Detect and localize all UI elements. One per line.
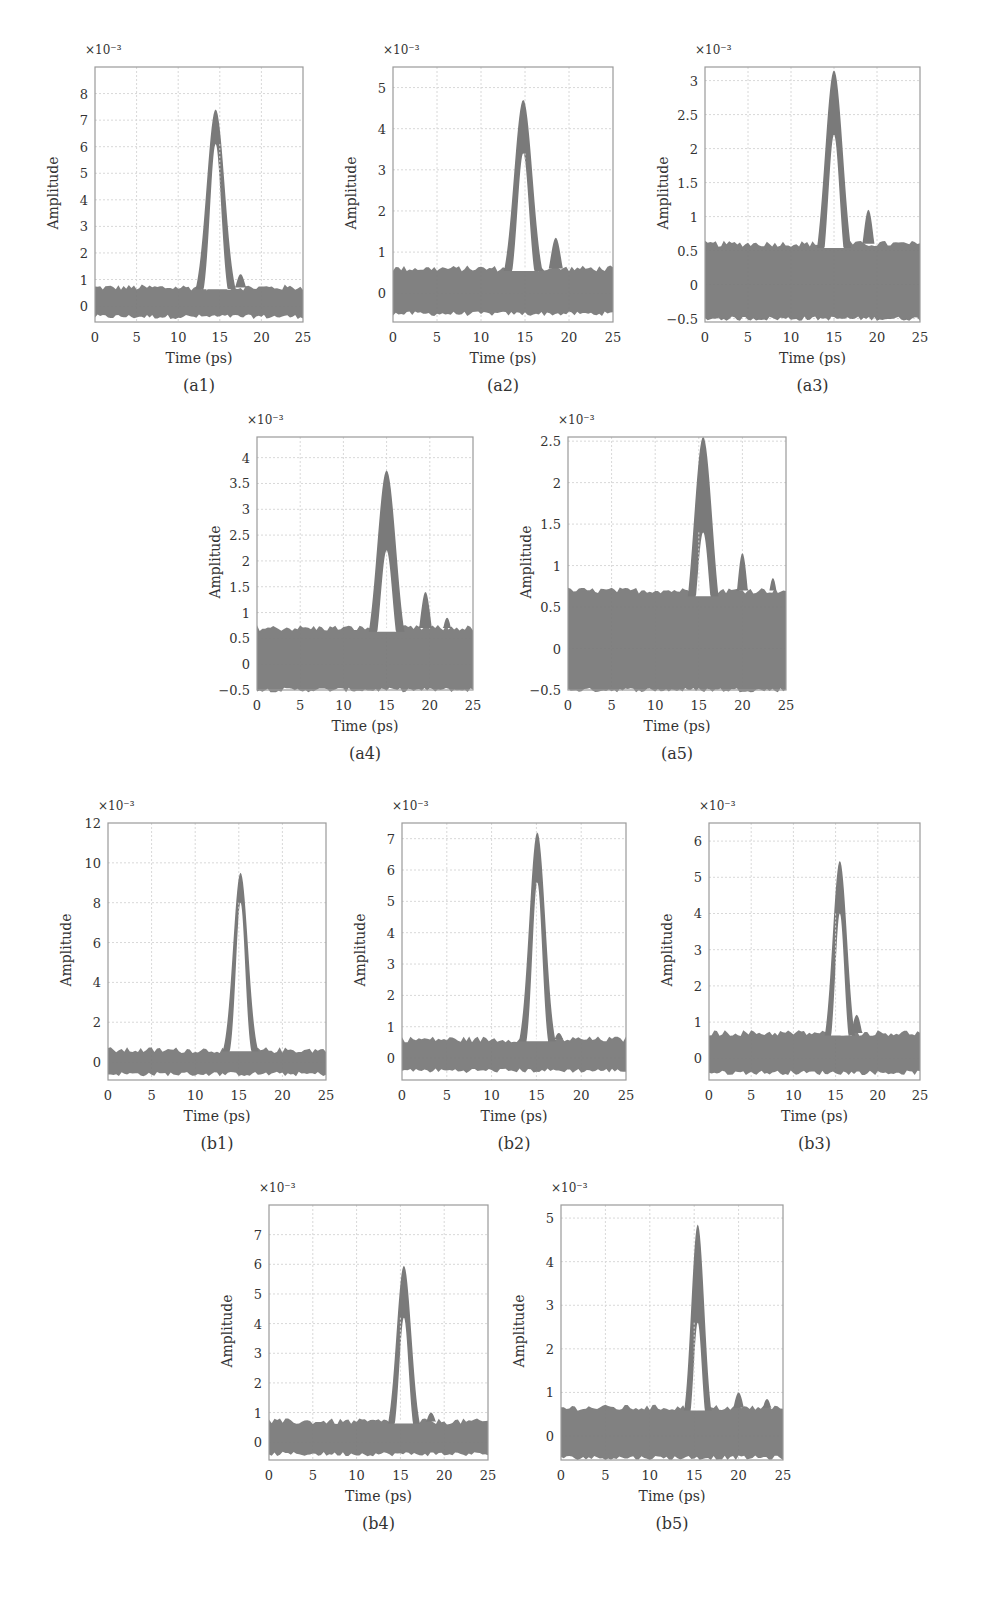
panel-caption: (b5) — [632, 1514, 712, 1533]
svg-text:20: 20 — [730, 1468, 747, 1483]
svg-text:15: 15 — [686, 1468, 703, 1483]
svg-text:5: 5 — [546, 1211, 554, 1226]
svg-text:10: 10 — [642, 1468, 659, 1483]
svg-text:1: 1 — [546, 1385, 554, 1400]
svg-text:4: 4 — [546, 1255, 554, 1270]
svg-text:0: 0 — [557, 1468, 565, 1483]
exponent-label: ×10⁻³ — [551, 1181, 587, 1195]
svg-text:25: 25 — [775, 1468, 792, 1483]
svg-text:0: 0 — [546, 1429, 554, 1444]
y-axis-label: Amplitude — [511, 1281, 527, 1381]
svg-text:2: 2 — [546, 1342, 554, 1357]
svg-text:5: 5 — [601, 1468, 609, 1483]
x-axis-label: Time (ps) — [612, 1488, 732, 1504]
plot-area: 0510152025012345 — [0, 0, 982, 1607]
svg-text:3: 3 — [546, 1298, 554, 1313]
